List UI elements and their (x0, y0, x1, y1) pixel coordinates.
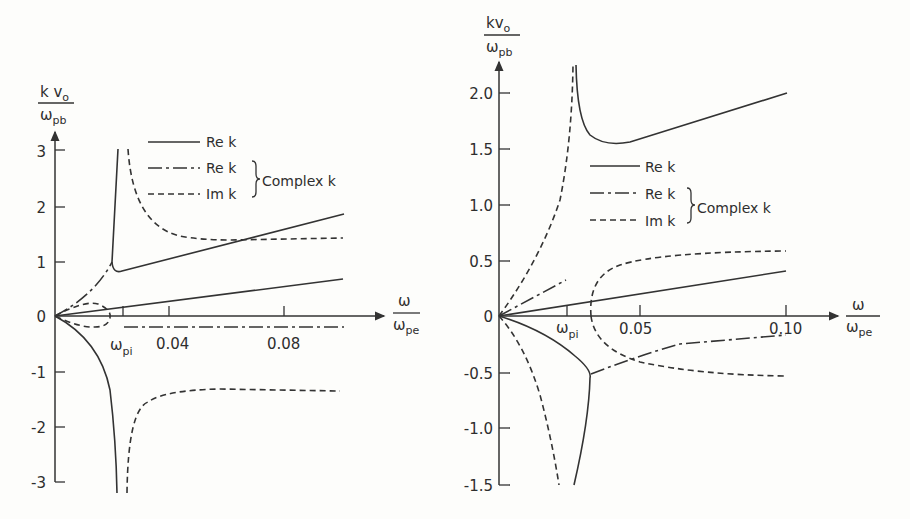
svg-text:-0.5: -0.5 (464, 365, 493, 383)
svg-text:0: 0 (36, 308, 46, 326)
svg-text:ω: ω (398, 292, 411, 310)
left-x-tick-label: 0.08 (267, 335, 300, 353)
svg-text:1.5: 1.5 (469, 141, 493, 159)
right-x-tick-wpi: ωpi (556, 319, 579, 341)
left-x-ticks (123, 306, 284, 316)
right-panel: kvo ωpb 2.0 1.5 1.0 0.5 0 -0.5 -1.0 -1.5 (464, 14, 880, 495)
svg-text:Re k: Re k (645, 186, 676, 202)
svg-text:-1.0: -1.0 (464, 420, 493, 438)
svg-text:0.5: 0.5 (469, 253, 493, 271)
right-y-axis-label: kvo ωpb (484, 14, 520, 59)
svg-text:Re k: Re k (206, 134, 237, 150)
svg-text:-1.5: -1.5 (464, 477, 493, 495)
left-y-tick-labels: 3 2 1 0 -1 -2 -3 (31, 143, 46, 492)
svg-text:2: 2 (36, 199, 46, 217)
svg-text:kvo: kvo (486, 14, 511, 35)
left-x-tick-wpi: ωpi (110, 336, 133, 358)
svg-text:Im k: Im k (645, 213, 676, 229)
svg-text:Complex k: Complex k (262, 173, 337, 189)
left-y-axis-label: k vo ωpb (38, 83, 74, 127)
left-curves (55, 149, 344, 493)
svg-text:1.0: 1.0 (469, 197, 493, 215)
svg-text:ωpb: ωpb (40, 106, 67, 127)
right-y-ticks (499, 93, 510, 485)
svg-text:Re k: Re k (206, 160, 237, 176)
right-legend: Re k Re k Im k Complex k (590, 159, 772, 229)
svg-text:Im k: Im k (206, 186, 237, 202)
right-x-axis-label: ω ωpe (846, 296, 880, 339)
svg-text:ω: ω (852, 296, 865, 314)
svg-text:Re k: Re k (645, 159, 676, 175)
right-x-ticks (567, 305, 786, 316)
svg-text:ωpb: ωpb (486, 38, 513, 59)
right-x-tick-label: 0.05 (619, 320, 652, 338)
left-x-axis-label: ω ωpe (393, 292, 420, 337)
svg-text:ωpe: ωpe (846, 318, 873, 339)
svg-text:0: 0 (483, 308, 493, 326)
svg-text:-1: -1 (31, 364, 46, 382)
svg-text:-3: -3 (31, 474, 46, 492)
left-x-tick-label: 0.04 (156, 335, 189, 353)
svg-text:ωpe: ωpe (393, 316, 420, 337)
left-legend: Re k Re k Im k Complex k (148, 134, 337, 202)
left-panel: k vo ωpb 3 2 1 0 -1 -2 -3 (31, 83, 420, 493)
right-y-tick-labels: 2.0 1.5 1.0 0.5 0 -0.5 -1.0 -1.5 (464, 85, 493, 495)
figure: k vo ωpb 3 2 1 0 -1 -2 -3 (0, 0, 910, 519)
svg-text:3: 3 (36, 143, 46, 161)
svg-text:Complex k: Complex k (697, 200, 772, 216)
svg-text:1: 1 (36, 254, 46, 272)
svg-text:-2: -2 (31, 419, 46, 437)
svg-text:2.0: 2.0 (469, 85, 493, 103)
svg-text:k vo: k vo (40, 83, 69, 104)
right-curves (499, 65, 787, 485)
